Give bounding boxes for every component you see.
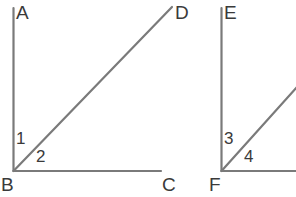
geometry-diagram: A B C D 1 2 E F 3 4 [0,0,296,197]
geometry-lines [0,0,296,197]
angle-label-1: 1 [16,130,25,147]
angle-label-4: 4 [244,148,253,165]
angle-label-3: 3 [224,130,233,147]
vertex-label-c: C [162,175,176,194]
vertex-label-e: E [224,3,237,22]
vertex-label-b: B [1,175,14,194]
vertex-label-f: F [209,175,221,194]
vertex-label-d: D [175,3,189,22]
angle-label-2: 2 [36,148,45,165]
vertex-label-a: A [16,3,29,22]
